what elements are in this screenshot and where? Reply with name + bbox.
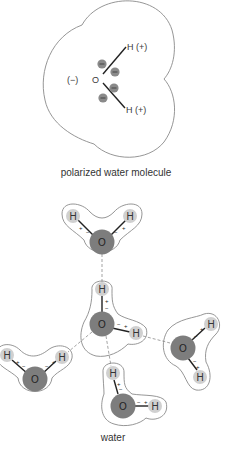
charge-label: − bbox=[86, 229, 90, 235]
charge-label: − bbox=[137, 399, 141, 405]
oxygen-label: O bbox=[179, 343, 187, 354]
charge-label: − bbox=[105, 305, 109, 311]
charge-label: − bbox=[22, 363, 26, 369]
water-network-panel: O H H + − − + O H H + − − + bbox=[0, 204, 220, 443]
hydrogen-top-label: H (+) bbox=[127, 42, 147, 52]
hydrogen-label: H bbox=[196, 372, 203, 383]
molecule-left: O H H + − − + bbox=[0, 345, 72, 392]
oxygen-label: O bbox=[98, 319, 106, 330]
charge-label: + bbox=[16, 359, 20, 365]
charge-label: − bbox=[45, 363, 49, 369]
charge-label: + bbox=[122, 225, 126, 231]
hydrogen-label: H bbox=[126, 211, 133, 222]
molecule-right: O H H + − − + bbox=[163, 313, 219, 390]
water-diagram: (−) O H (+) H (+) polarized water molecu… bbox=[0, 0, 232, 451]
hydrogen-label: H bbox=[98, 284, 105, 295]
hydrogen-label: H bbox=[3, 350, 10, 361]
hydrogen-label: H bbox=[132, 328, 139, 339]
electron-markers bbox=[97, 59, 119, 102]
molecule-top: O H H + − − + bbox=[62, 204, 142, 255]
charge-label: + bbox=[200, 326, 204, 332]
oxygen-charge-label: (−) bbox=[67, 75, 78, 85]
polarized-molecule-panel: (−) O H (+) H (+) polarized water molecu… bbox=[43, 1, 174, 178]
charge-label: − bbox=[117, 321, 121, 327]
charge-label: + bbox=[196, 364, 200, 370]
electron-cloud-outline bbox=[43, 1, 174, 157]
oxygen-label: O bbox=[92, 75, 99, 85]
charge-label: + bbox=[79, 225, 83, 231]
molecule-center: O H H + − − + bbox=[81, 281, 147, 356]
charge-label: + bbox=[105, 298, 109, 304]
oxygen-label: O bbox=[119, 401, 127, 412]
molecule-bottom: O H H + − − + bbox=[102, 363, 167, 426]
charge-label: − bbox=[119, 386, 123, 392]
charge-label: + bbox=[52, 359, 56, 365]
hydrogen-label: H bbox=[58, 352, 65, 363]
charge-label: + bbox=[144, 399, 148, 405]
hydrogen-label: H bbox=[109, 368, 116, 379]
charge-label: + bbox=[124, 323, 128, 329]
top-caption: polarized water molecule bbox=[61, 167, 172, 178]
oxygen-label: O bbox=[31, 374, 39, 385]
oxygen-label: O bbox=[98, 237, 106, 248]
hydrogen-label: H bbox=[69, 211, 76, 222]
hydrogen-bonds bbox=[68, 254, 170, 366]
charge-label: − bbox=[114, 229, 118, 235]
hydrogen-label: H bbox=[151, 401, 158, 412]
hydrogen-bottom-label: H (+) bbox=[126, 105, 146, 115]
bottom-caption: water bbox=[100, 432, 126, 443]
charge-label: − bbox=[194, 333, 198, 339]
hydrogen-label: H bbox=[207, 319, 214, 330]
